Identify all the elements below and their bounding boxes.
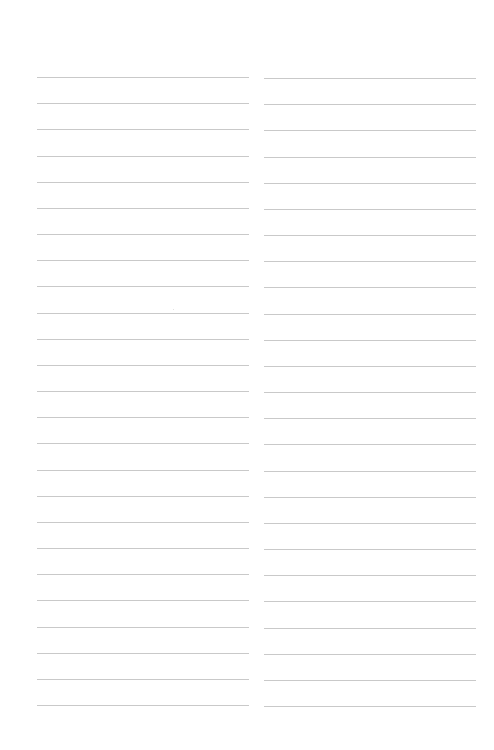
lined-page xyxy=(0,0,494,750)
ruled-line xyxy=(37,365,249,366)
ruled-line xyxy=(37,234,249,235)
ruled-line xyxy=(37,182,249,183)
ruled-line xyxy=(264,549,476,550)
ruled-line xyxy=(264,471,476,472)
ruled-line xyxy=(37,470,249,471)
ruled-line xyxy=(37,574,249,575)
ruled-line xyxy=(264,418,476,419)
ruled-line xyxy=(37,208,249,209)
ruled-line xyxy=(37,548,249,549)
ruled-line xyxy=(37,313,249,314)
right-column xyxy=(264,0,476,750)
ruled-line xyxy=(37,679,249,680)
ruled-line xyxy=(264,366,476,367)
ruled-line xyxy=(264,314,476,315)
ruled-line xyxy=(264,78,476,79)
ruled-line xyxy=(264,130,476,131)
ruled-line xyxy=(264,261,476,262)
ruled-line xyxy=(37,339,249,340)
ruled-line xyxy=(264,575,476,576)
ruled-line xyxy=(37,627,249,628)
ruled-line xyxy=(264,392,476,393)
ruled-line xyxy=(37,600,249,601)
ruled-line xyxy=(37,286,249,287)
ruled-line xyxy=(37,391,249,392)
left-column xyxy=(37,0,249,750)
ruled-line xyxy=(37,156,249,157)
ruled-line xyxy=(264,340,476,341)
ruled-line xyxy=(264,104,476,105)
ruled-line xyxy=(264,209,476,210)
ruled-line xyxy=(37,496,249,497)
ruled-line xyxy=(264,706,476,707)
ruled-line xyxy=(264,235,476,236)
ruled-line xyxy=(37,443,249,444)
ruled-line xyxy=(264,183,476,184)
ruled-line xyxy=(37,129,249,130)
ruled-line xyxy=(264,157,476,158)
ruled-line xyxy=(37,653,249,654)
ruled-line xyxy=(37,77,249,78)
paper-speck xyxy=(173,309,174,310)
ruled-line xyxy=(37,522,249,523)
ruled-line xyxy=(264,523,476,524)
ruled-line xyxy=(264,601,476,602)
ruled-line xyxy=(37,103,249,104)
ruled-line xyxy=(264,287,476,288)
ruled-line xyxy=(37,417,249,418)
ruled-line xyxy=(37,705,249,706)
ruled-line xyxy=(264,628,476,629)
ruled-line xyxy=(264,497,476,498)
ruled-line xyxy=(264,444,476,445)
ruled-line xyxy=(264,654,476,655)
ruled-line xyxy=(37,260,249,261)
ruled-line xyxy=(264,680,476,681)
